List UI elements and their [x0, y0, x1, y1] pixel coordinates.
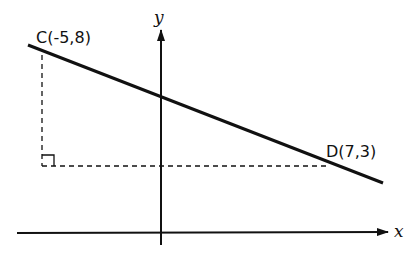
x-axis-label: x [394, 223, 404, 239]
right-angle-marker [42, 155, 54, 166]
point-c-label: C(-5,8) [36, 30, 91, 46]
x-axis [17, 232, 388, 233]
y-axis-label: y [154, 9, 164, 25]
coordinate-diagram: C(-5,8) D(7,3) y x [0, 0, 419, 260]
line-cd [28, 45, 383, 183]
point-d-label: D(7,3) [326, 144, 376, 160]
